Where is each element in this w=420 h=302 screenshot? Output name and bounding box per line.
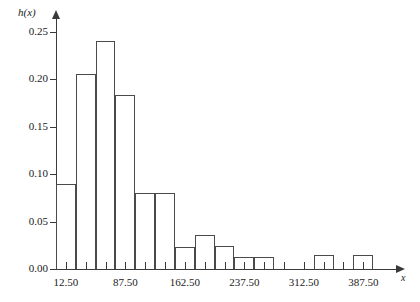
histogram-bar [115,95,135,269]
histogram-bar [195,235,215,269]
histogram-bar [96,41,116,269]
histogram-bar [155,193,175,269]
histogram-bar [215,246,235,269]
histogram-bar [314,255,334,269]
histogram-bar [234,257,254,269]
histogram-bar [56,184,76,270]
histogram-bar [353,255,373,269]
histogram-bar [76,74,96,269]
bars-layer [0,0,420,302]
histogram-chart: h(x) x 0.000.050.100.150.200.2512.5087.5… [0,0,420,302]
histogram-bar [254,257,274,269]
histogram-bar [135,193,155,269]
histogram-bar [175,247,195,269]
